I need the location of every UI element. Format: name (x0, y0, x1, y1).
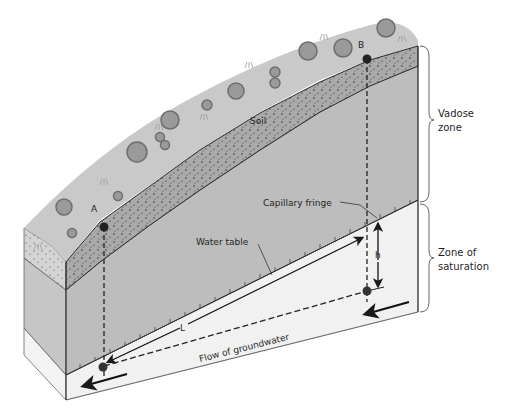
capillary-fringe-label: Capillary fringe (263, 198, 332, 208)
h-label: h (375, 250, 381, 260)
soil-label: Soil (250, 116, 266, 126)
point-b-water-dot (363, 287, 372, 296)
point-a-label: A (91, 204, 98, 214)
point-a-surface-dot (100, 223, 109, 232)
vadose-label-line2: zone (438, 122, 462, 133)
groundwater-diagram: L h A B Soil Water table Capillary fring… (0, 0, 507, 419)
L-label: L (180, 323, 185, 333)
vadose-bracket (420, 46, 434, 202)
saturation-label-line2: saturation (438, 261, 489, 272)
saturation-bracket (420, 204, 434, 312)
point-b-label: B (358, 40, 364, 50)
point-b-surface-dot (363, 55, 372, 64)
point-a-water-dot (99, 363, 108, 372)
vadose-label-line1: Vadose (438, 108, 474, 119)
water-table-label: Water table (196, 237, 249, 247)
saturation-label-line1: Zone of (438, 247, 477, 258)
